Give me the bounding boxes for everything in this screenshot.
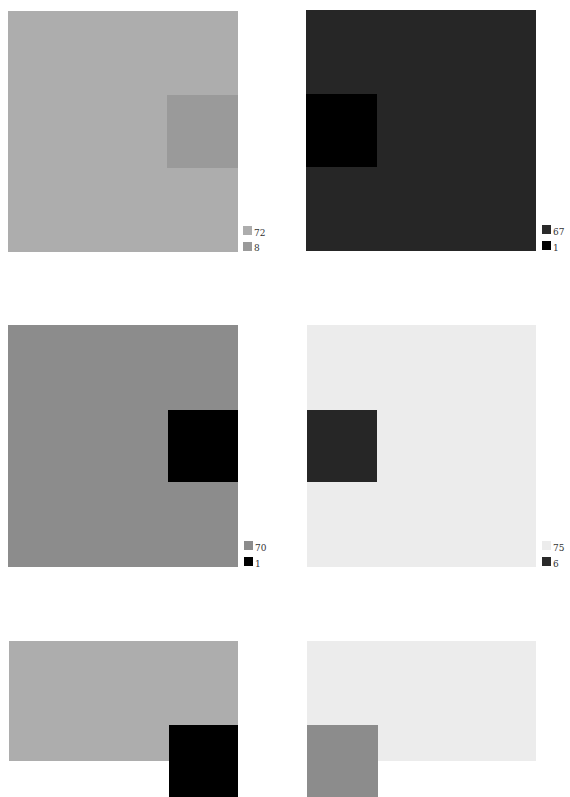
- legend-label-1a: 72: [254, 228, 265, 238]
- legend-swatch-3a: [244, 541, 253, 550]
- color-panel-2: [306, 10, 536, 251]
- legend-swatch-1a: [243, 226, 252, 235]
- legend-label-3b: 1: [255, 559, 261, 569]
- color-panel-4-inner-square: [307, 410, 377, 482]
- legend-swatch-4b: [542, 557, 551, 566]
- legend-swatch-1b: [243, 242, 252, 251]
- color-panel-6: [307, 641, 536, 761]
- legend-label-4b: 6: [553, 559, 559, 569]
- legend-label-2b: 1: [553, 243, 559, 253]
- legend-swatch-2b: [542, 241, 551, 250]
- legend-label-1b: 8: [254, 243, 260, 253]
- legend-label-4a: 75: [553, 543, 564, 553]
- legend-label-2a: 67: [553, 227, 564, 237]
- color-panel-5: [9, 641, 238, 761]
- color-panel-2-inner-square: [306, 94, 377, 167]
- color-panel-3-inner-square: [168, 410, 238, 482]
- color-panel-1-inner-square: [167, 95, 238, 168]
- color-panel-3: [8, 325, 238, 567]
- legend-label-3a: 70: [255, 543, 266, 553]
- color-panel-1: [8, 11, 238, 252]
- legend-swatch-2a: [542, 225, 551, 234]
- color-panel-5-inner-square: [169, 725, 238, 797]
- color-panel-6-inner-square: [307, 725, 378, 797]
- color-panel-4: [307, 325, 536, 567]
- legend-swatch-3b: [244, 557, 253, 566]
- legend-swatch-4a: [542, 541, 551, 550]
